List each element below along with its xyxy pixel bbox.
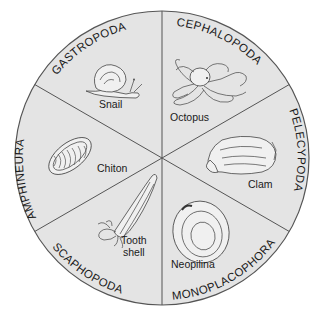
animal-label-snail: Snail [99,98,122,110]
animal-label-chiton: Chiton [97,162,128,174]
animal-label-octopus: Octopus [170,111,209,123]
animal-label-tooth: Tooth [121,234,147,246]
animal-label-shell: shell [123,246,145,258]
mollusca-classes-diagram: GASTROPODA Snail CEPHALOPODA [0,0,323,318]
animal-label-clam: Clam [248,178,273,190]
animal-label-neopilina: Neopilina [171,258,215,270]
